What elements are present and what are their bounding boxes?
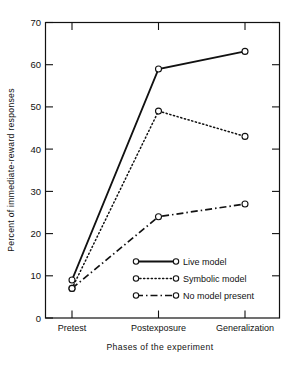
- legend-label: Live model: [183, 257, 227, 267]
- y-axis-title: Percent of immediate-reward responses: [6, 88, 16, 251]
- x-axis-tick-labels: Pretest Postexposure Generalization: [58, 323, 274, 333]
- y-tick-label: 40: [30, 144, 41, 155]
- y-tick-label: 0: [36, 313, 41, 324]
- legend-entry-live-model: Live model: [133, 257, 226, 267]
- series-live-model: [69, 48, 248, 283]
- y-tick-label: 70: [30, 17, 41, 28]
- chart-legend: Live model Symbolic model No model prese…: [133, 257, 254, 301]
- y-tick-label: 50: [30, 101, 41, 112]
- data-point: [242, 133, 248, 139]
- legend-marker: [133, 293, 138, 298]
- x-tick-label: Pretest: [58, 323, 87, 333]
- legend-marker: [173, 276, 178, 281]
- data-point: [69, 285, 75, 291]
- legend-marker: [133, 276, 138, 281]
- x-axis-title: Phases of the experiment: [106, 342, 213, 352]
- legend-entry-symbolic-model: Symbolic model: [133, 274, 246, 284]
- data-point: [69, 277, 75, 283]
- legend-marker: [173, 293, 178, 298]
- y-tick-label: 20: [30, 228, 41, 239]
- x-tick-label: Generalization: [216, 323, 274, 333]
- chart-figure: 70 60 50 40 30 20 10 0 Pretest Postexpos…: [0, 0, 293, 367]
- data-point: [156, 214, 162, 220]
- y-axis-ticks-right: [272, 23, 280, 276]
- x-tick-label: Postexposure: [131, 323, 186, 333]
- line-chart: 70 60 50 40 30 20 10 0 Pretest Postexpos…: [0, 0, 293, 367]
- legend-entry-no-model-present: No model present: [133, 291, 254, 301]
- y-axis-ticks: [46, 23, 54, 319]
- y-axis-tick-labels: 70 60 50 40 30 20 10 0: [30, 17, 41, 324]
- y-tick-label: 60: [30, 59, 41, 70]
- legend-label: No model present: [183, 291, 255, 301]
- data-point: [156, 66, 162, 72]
- data-point: [242, 201, 248, 207]
- legend-marker: [173, 259, 178, 264]
- data-point: [156, 108, 162, 114]
- y-tick-label: 30: [30, 186, 41, 197]
- legend-label: Symbolic model: [183, 274, 247, 284]
- series-line-live-model: [72, 51, 245, 280]
- legend-marker: [133, 259, 138, 264]
- data-point: [242, 48, 248, 54]
- y-tick-label: 10: [30, 270, 41, 281]
